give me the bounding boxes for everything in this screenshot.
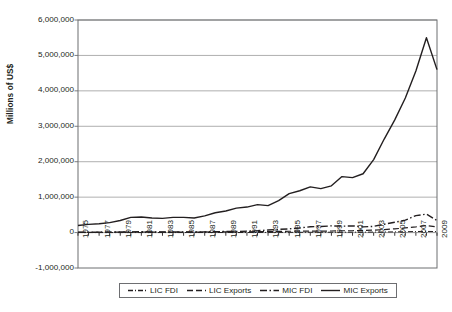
x-tick-label: 1983 [166, 220, 175, 238]
legend-item-label: MIC FDI [282, 286, 312, 295]
x-tick-label: 1981 [145, 220, 154, 238]
x-axis-tick-labels: 1975197719791981198319851987198919911993… [0, 0, 452, 312]
legend-item-mic-fdi[interactable]: MIC FDI [260, 286, 312, 295]
legend-item-mic-exports[interactable]: MIC Exports [321, 286, 388, 295]
x-tick-label: 2005 [398, 220, 407, 238]
legend-line-swatch-icon [128, 287, 147, 294]
x-tick-label: 2003 [377, 220, 386, 238]
legend-line-swatch-icon [260, 287, 279, 294]
x-tick-label: 1991 [250, 220, 259, 238]
x-tick-label: 1997 [314, 220, 323, 238]
x-tick-label: 1987 [208, 220, 217, 238]
x-tick-label: 1977 [103, 220, 112, 238]
x-tick-label: 1999 [335, 220, 344, 238]
chart-legend: LIC FDILIC ExportsMIC FDIMIC Exports [119, 283, 397, 298]
legend-line-swatch-icon [321, 287, 340, 294]
x-tick-label: 2009 [440, 220, 449, 238]
x-tick-label: 2001 [356, 220, 365, 238]
x-tick-label: 1979 [124, 220, 133, 238]
legend-line-swatch-icon [187, 287, 206, 294]
x-tick-label: 1975 [81, 220, 90, 238]
legend-item-label: MIC Exports [343, 286, 388, 295]
legend-item-label: LIC FDI [150, 286, 178, 295]
x-tick-label: 1989 [229, 220, 238, 238]
legend-item-label: LIC Exports [209, 286, 251, 295]
legend-item-lic-exports[interactable]: LIC Exports [187, 286, 251, 295]
x-tick-label: 1995 [293, 220, 302, 238]
legend-item-lic-fdi[interactable]: LIC FDI [128, 286, 178, 295]
x-tick-label: 1993 [271, 220, 280, 238]
chart-container: Millions of US$ 6,000,0005,000,0004,000,… [0, 0, 452, 312]
x-tick-label: 2007 [419, 220, 428, 238]
x-tick-label: 1985 [187, 220, 196, 238]
